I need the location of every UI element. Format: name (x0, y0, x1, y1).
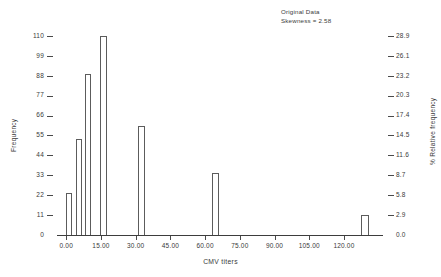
x-tick-mark (101, 236, 102, 240)
y-tick-label-right: 5.8 (396, 191, 406, 198)
y-tick-label-right: 23.2 (396, 72, 409, 79)
x-tick-mark (309, 236, 310, 240)
histogram-bar (85, 74, 91, 235)
x-tick-mark (240, 236, 241, 240)
y-tick-label-left: 66 (14, 111, 44, 118)
y-tick-label-right: 20.3 (396, 91, 409, 98)
y-tick-mark-right (388, 215, 394, 216)
x-tick-mark (344, 236, 345, 240)
x-tick-mark (170, 236, 171, 240)
y-tick-mark-left (47, 175, 53, 176)
y-tick-mark-right (388, 36, 394, 37)
histogram-bar (212, 173, 219, 235)
x-tick-mark (275, 236, 276, 240)
y-tick-mark-right (388, 56, 394, 57)
y-tick-mark-right (388, 116, 394, 117)
histogram-figure: Original Data Skewness = 2.58 Frequency … (0, 0, 441, 277)
y-tick-mark-right (388, 76, 394, 77)
y-tick-label-left: 44 (14, 151, 44, 158)
y-tick-label-right: 28.9 (396, 32, 409, 39)
y-tick-label-right: 26.1 (396, 52, 409, 59)
y-tick-label-right: 8.7 (396, 171, 406, 178)
y-tick-label-left: 88 (14, 72, 44, 79)
y-tick-mark-left (47, 155, 53, 156)
histogram-bar (138, 126, 145, 235)
histogram-bar (76, 139, 82, 235)
y-tick-mark-left (47, 116, 53, 117)
y-tick-label-right: 17.4 (396, 111, 409, 118)
annotation-line-1: Original Data (281, 8, 331, 17)
y-tick-mark-left (47, 76, 53, 77)
y-tick-label-right: 2.9 (396, 211, 406, 218)
y-tick-label-left: 110 (14, 32, 44, 39)
chart-annotation: Original Data Skewness = 2.58 (281, 8, 331, 25)
y-tick-mark-right (388, 195, 394, 196)
y-tick-label-right: 11.6 (396, 151, 409, 158)
y-tick-mark-left (47, 135, 53, 136)
y-tick-mark-left (47, 56, 53, 57)
x-axis-title: CMV titers (0, 258, 441, 265)
y-tick-mark-right (388, 155, 394, 156)
x-axis-line (57, 235, 383, 236)
y-tick-label-right: 14.5 (396, 131, 409, 138)
histogram-bar (361, 215, 368, 235)
y-tick-mark-right (388, 96, 394, 97)
y-tick-label-left: 33 (14, 171, 44, 178)
y-tick-label-left: 77 (14, 91, 44, 98)
plot-area (57, 26, 381, 235)
y-tick-label-left: 22 (14, 191, 44, 198)
annotation-line-2: Skewness = 2.58 (281, 17, 331, 26)
y-tick-mark-left (47, 96, 53, 97)
y-tick-label-left: 99 (14, 52, 44, 59)
histogram-bar (100, 36, 107, 235)
y-tick-mark-left (47, 215, 53, 216)
y-tick-label-right: 0.0 (396, 231, 406, 238)
y-tick-mark-right (388, 135, 394, 136)
histogram-bar (66, 193, 72, 235)
y-tick-mark-right (388, 175, 394, 176)
x-tick-mark (205, 236, 206, 240)
y-axis-title-right: % Relative frequency (429, 98, 436, 165)
y-tick-mark-left (47, 36, 53, 37)
x-tick-mark (66, 236, 67, 240)
y-tick-label-left: 0 (14, 231, 44, 238)
y-tick-label-left: 55 (14, 131, 44, 138)
y-tick-label-left: 11 (14, 211, 44, 218)
x-tick-label: 120.00 (324, 242, 364, 249)
x-tick-mark (136, 236, 137, 240)
y-tick-mark-left (47, 195, 53, 196)
